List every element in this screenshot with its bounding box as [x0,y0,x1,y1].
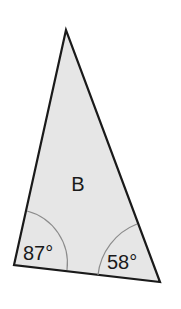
angle-label-right: 58° [107,251,137,273]
angle-label-left: 87° [23,242,53,264]
triangle-label: B [71,173,84,195]
triangle-diagram: B 87° 58° [0,0,181,309]
